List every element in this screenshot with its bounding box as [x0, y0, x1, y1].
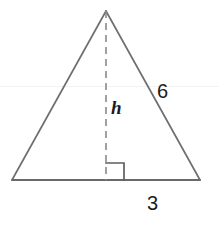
label-half-base-3: 3 — [147, 193, 158, 213]
geometry-figure: h 6 3 — [0, 0, 219, 227]
triangle-diagram-svg — [0, 0, 219, 227]
triangle-left-side — [12, 11, 106, 180]
label-slant-side-6: 6 — [157, 81, 168, 101]
triangle-right-side — [106, 11, 200, 180]
right-angle-marker — [106, 163, 124, 180]
label-altitude-h: h — [111, 98, 122, 117]
